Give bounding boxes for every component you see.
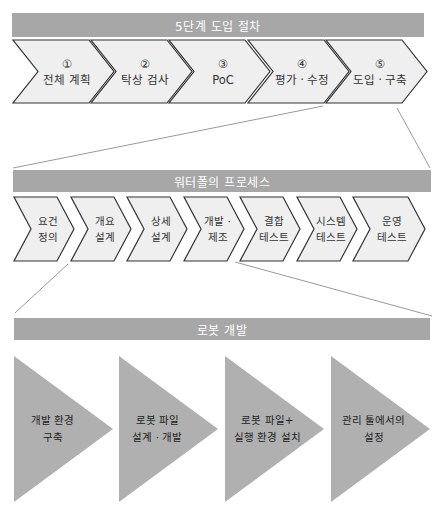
step-label: 평가 · 수정 <box>275 72 330 88</box>
step-label-line2: 제조 <box>208 229 228 245</box>
step-label-line1: 시스템 <box>316 213 346 229</box>
connector-line <box>15 264 68 313</box>
step-label-line2: 정의 <box>38 229 58 245</box>
triangle-step-1: 개발 환경구축 <box>14 356 113 502</box>
step-label: 전체 계획 <box>43 72 91 88</box>
step-label-line2: 설계 <box>151 229 171 245</box>
chevron-waterfall-1: 요건정의 <box>13 196 75 262</box>
step-label-line1: 결합 <box>264 213 284 229</box>
triangle-step-4: 관리 툴에서의설정 <box>331 356 430 502</box>
step-label-line2: 테스트 <box>377 229 407 245</box>
step-label-line2: 설계 <box>95 229 115 245</box>
step-label-line1: 로봇 파일 <box>136 412 179 429</box>
chevron-waterfall-4: 개발 ·제조 <box>183 196 245 262</box>
step-number: ⑤ <box>375 56 385 72</box>
chevron-waterfall-2: 개요설계 <box>70 196 132 262</box>
step-number: ④ <box>297 56 307 72</box>
chevron-waterfall-6: 시스템테스트 <box>296 196 358 262</box>
step-label: 도입 · 구축 <box>353 72 408 88</box>
chevron-waterfall-3: 상세설계 <box>126 196 188 262</box>
step-number: ② <box>140 56 150 72</box>
step-label-line1: 개요 <box>95 213 115 229</box>
connector-line <box>235 262 432 316</box>
step-number: ③ <box>218 56 228 72</box>
step-label-line1: 로봇 파일+ <box>241 412 293 429</box>
step-label-line1: 개발 환경 <box>31 412 74 429</box>
step-label-line2: 테스트 <box>316 229 346 245</box>
step-label-line2: 설계 · 개발 <box>132 429 182 446</box>
step-label: PoC <box>212 72 234 88</box>
section-header-5-step: 5단계 도입 절차 <box>12 13 424 37</box>
connector-line <box>13 106 323 168</box>
step-label-line1: 개발 · <box>204 213 231 229</box>
chevron-waterfall-5: 결합테스트 <box>239 196 301 262</box>
triangle-step-2: 로봇 파일설계 · 개발 <box>119 356 218 502</box>
section-header-waterfall: 워터폴의 프로세스 <box>13 170 431 192</box>
step-label-line1: 상세 <box>151 213 171 229</box>
section-header-robot-dev: 로봇 개발 <box>14 318 430 340</box>
step-label: 탁상 검사 <box>121 72 169 88</box>
step-label-line2: 구축 <box>43 429 63 446</box>
step-label-line2: 실행 환경 설치 <box>234 429 301 446</box>
chevron-waterfall-7: 운영테스트 <box>352 196 426 262</box>
step-label-line1: 운영 <box>382 213 402 229</box>
chevron-step-5: ⑤도입 · 구축 <box>325 39 429 104</box>
triangle-step-3: 로봇 파일+실행 환경 설치 <box>225 356 324 502</box>
step-label-line2: 테스트 <box>259 229 289 245</box>
step-label-line2: 설정 <box>364 429 384 446</box>
connector-line <box>397 108 430 168</box>
step-label-line1: 관리 툴에서의 <box>342 412 405 429</box>
step-number: ① <box>62 56 72 72</box>
step-label-line1: 요건 <box>38 213 58 229</box>
